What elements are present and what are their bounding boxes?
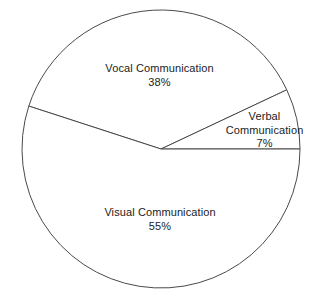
pie-label-verbal: Verbal Communication 7% — [219, 110, 310, 151]
pie-chart: Vocal Communication 38% Verbal Communica… — [0, 0, 318, 299]
pie-label-verbal-percent: 7% — [219, 137, 310, 151]
pie-label-verbal-name-line1: Verbal — [219, 110, 310, 124]
pie-label-visual: Visual Communication 55% — [47, 206, 273, 233]
pie-label-vocal: Vocal Communication 38% — [47, 62, 272, 89]
pie-label-vocal-name: Vocal Communication — [47, 62, 272, 76]
pie-label-verbal-name-line2: Communication — [219, 124, 310, 138]
pie-label-vocal-percent: 38% — [47, 76, 272, 90]
pie-label-visual-percent: 55% — [47, 220, 273, 234]
pie-label-visual-name: Visual Communication — [47, 206, 273, 220]
